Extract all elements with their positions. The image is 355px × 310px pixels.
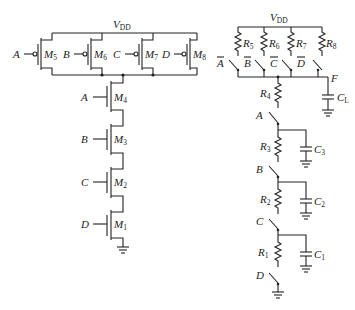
junction-dot [151,73,154,76]
pullup-branch-r8: R8 D [296,27,337,77]
resistor-label-r1: R1 [257,246,269,260]
gate-label-m4: A [80,91,88,103]
bottom-switch-d: D [255,269,279,292]
pmos-label-m6: M6 [93,48,107,62]
switch-label-a: A [255,109,263,121]
switch-a-bar [229,60,238,70]
switch-label-d-bar: D [296,57,305,69]
nmos-m4: A M4 [80,75,127,126]
gate-label-m6: B [63,48,70,60]
gate-label-m1: D [80,218,89,230]
resistor-label-r7: R7 [295,37,307,51]
resistor-label-r3: R3 [259,140,271,154]
cap-label-c2: C2 [314,195,325,209]
resistor-label-r8: R8 [325,37,337,51]
switch-label-c: C [256,215,264,227]
resistor-label-r6: R6 [268,37,280,51]
stage-c: C R1 C1 [256,215,325,272]
nmos-m3: B M3 [81,124,127,169]
switch-label-d: D [255,269,264,281]
cap-label-cl: CL [337,91,349,105]
pmos-m6: B M6 [63,33,107,75]
switch-label-c-bar: C [270,57,278,69]
switch-label-b-bar: B [244,57,251,69]
ground-icon [272,292,284,298]
output-label-f: F [330,72,338,84]
nmos-label-m4: M4 [113,91,127,105]
pullup-branch-r6: R6 B [244,27,280,77]
resistor-label-r4: R4 [259,87,271,101]
nmos-m2: C M2 [81,167,127,212]
junction-dot [100,73,103,76]
pmos-label-m7: M7 [144,48,158,62]
pmos-label-m8: M8 [192,48,206,62]
pmos-m8: D M8 [161,33,206,75]
vdd-label-right: VDD [270,11,288,25]
nmos-label-m1: M1 [113,218,127,232]
gate-label-m7: C [113,48,121,60]
pmos-m7: C M7 [113,33,158,75]
nmos-label-m2: M2 [113,176,127,190]
nmos-m1: D M1 [80,210,127,247]
nmos-label-m3: M3 [113,133,127,147]
cap-label-c1: C1 [314,248,325,262]
pullup-branch-r5: R5 A [216,27,254,77]
circuit-diagram: VDD A M5 B M6 [0,0,355,310]
vdd-label-left: VDD [113,18,131,32]
gate-label-m2: C [81,176,89,188]
resistor-label-r5: R5 [242,37,254,51]
gate-label-m3: B [81,133,88,145]
stage-a: A R3 C3 [255,109,325,167]
pmos-label-m5: M5 [43,48,57,62]
cmos-nand-circuit: VDD A M5 B M6 [12,18,206,253]
resistor-r4: R4 [259,77,281,108]
gate-label-m5: A [12,48,20,60]
cap-label-c3: C3 [314,143,325,157]
pullup-branch-r7: R7 C [270,27,307,77]
ground-icon [117,247,129,253]
resistor-label-r2: R2 [259,193,271,207]
pmos-m5: A M5 [12,33,57,75]
switch-label-a-bar: A [216,57,224,69]
gate-label-m8: D [161,48,170,60]
stage-b: B R2 C2 [256,163,325,219]
switch-label-b: B [256,163,263,175]
switch-rc-model: VDD R5 A R6 B R7 C [216,11,349,298]
